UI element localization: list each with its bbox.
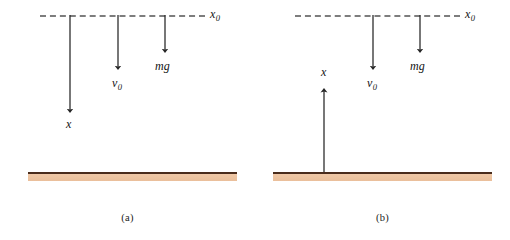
panel-b: x0 x v0 mg (b) [255, 0, 510, 240]
vector-label-x-a: x [66, 118, 71, 130]
panel-caption-a: (a) [0, 212, 255, 223]
vector-label-v0-b-symbol: v [367, 76, 372, 90]
vector-label-v0-b: v0 [367, 77, 377, 89]
vector-label-v0-a: v0 [112, 77, 122, 89]
vector-label-v0-a-symbol: v [112, 76, 117, 90]
vector-label-x-b: x [321, 66, 326, 78]
ground-bar-a [28, 172, 237, 181]
vector-label-x-a-symbol: x [66, 117, 71, 131]
vector-label-x-b-symbol: x [321, 65, 326, 79]
panel-caption-b: (b) [255, 212, 510, 223]
ground-bar-b [273, 172, 492, 181]
vector-label-mg-a: mg [155, 60, 170, 72]
physics-figure: x0 x v0 mg (a) [0, 0, 510, 240]
vector-label-mg-a-symbol: mg [155, 59, 170, 73]
vector-label-v0-a-subscript: 0 [118, 82, 122, 92]
panel-a: x0 x v0 mg (a) [0, 0, 255, 240]
vectors-a [0, 0, 255, 240]
vector-label-mg-b-symbol: mg [410, 59, 425, 73]
vectors-b [255, 0, 510, 240]
vector-label-mg-b: mg [410, 60, 425, 72]
vector-label-v0-b-subscript: 0 [373, 82, 377, 92]
